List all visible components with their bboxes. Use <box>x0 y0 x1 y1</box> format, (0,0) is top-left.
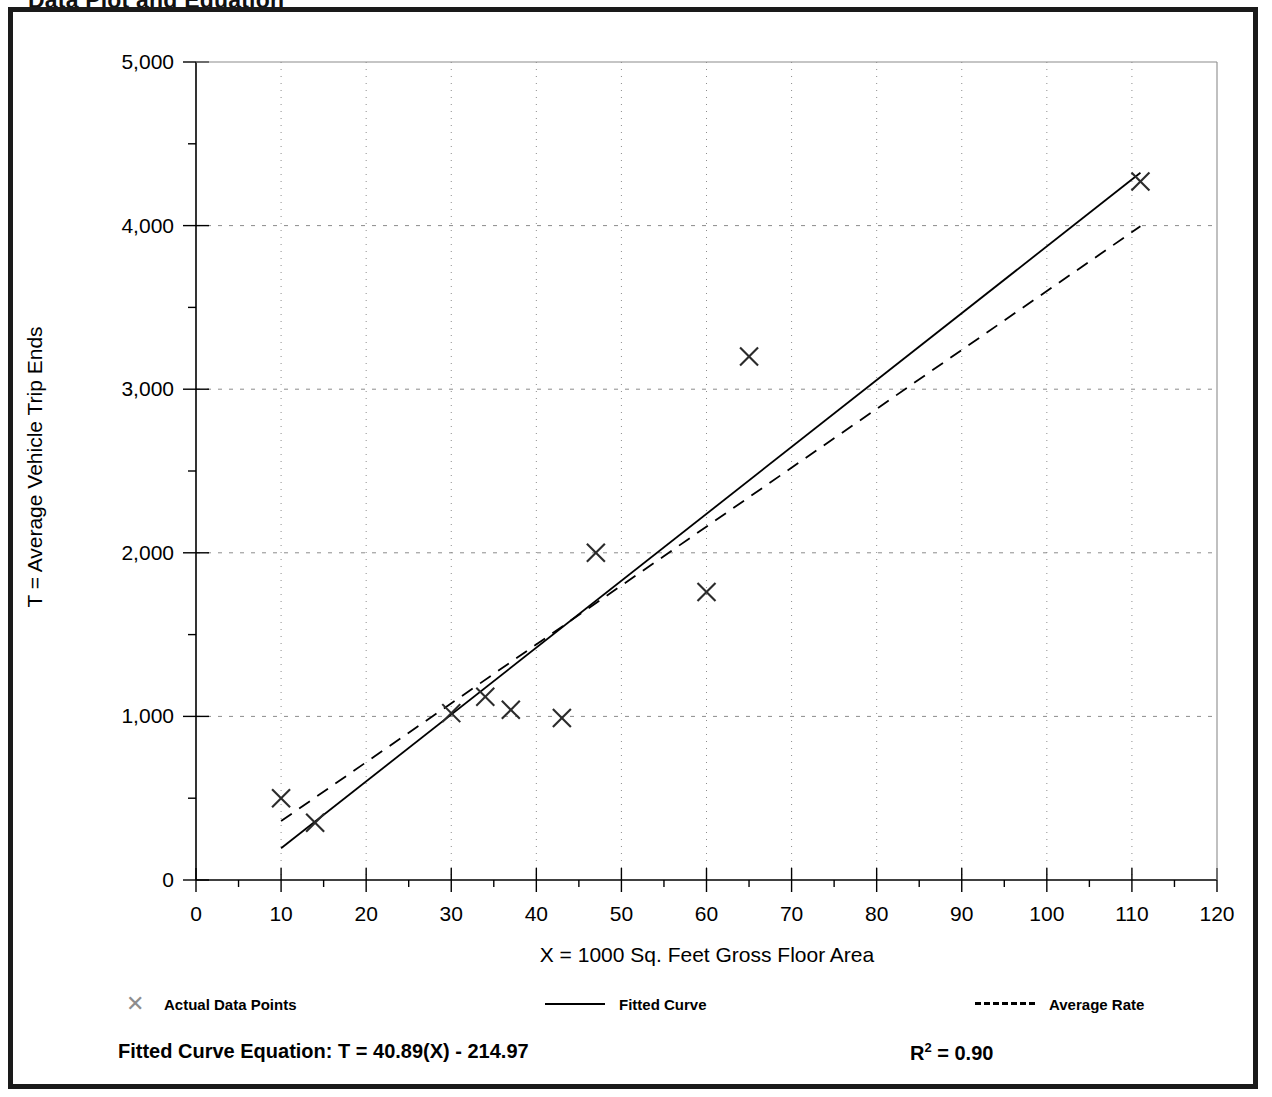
y-axis-tick-label: 5,000 <box>64 51 174 72</box>
y-axis-title: T = Average Vehicle Trip Ends <box>23 257 47 677</box>
equation-row: Fitted Curve Equation: T = 40.89(X) - 21… <box>0 1040 1272 1076</box>
chart-legend: ✕ Actual Data Points Fitted Curve Averag… <box>0 990 1272 1022</box>
dashed-line-icon <box>975 996 1035 1012</box>
x-axis-tick-label: 0 <box>156 903 236 924</box>
x-axis-tick-label: 70 <box>752 903 832 924</box>
x-axis-title: X = 1000 Sq. Feet Gross Floor Area <box>196 943 1218 967</box>
solid-line-icon <box>545 996 605 1012</box>
y-axis-tick-label: 2,000 <box>64 542 174 563</box>
legend-item-actual-data-points: ✕ Actual Data Points <box>118 990 297 1018</box>
y-axis-tick-label: 1,000 <box>64 705 174 726</box>
x-axis-tick-label: 90 <box>922 903 1002 924</box>
r-squared-exponent: 2 <box>924 1040 931 1055</box>
legend-item-fitted-curve: Fitted Curve <box>545 990 707 1018</box>
x-axis-tick-label: 60 <box>667 903 747 924</box>
y-axis-tick-label: 4,000 <box>64 215 174 236</box>
chart-frame <box>8 7 1258 1089</box>
x-axis-tick-label: 20 <box>326 903 406 924</box>
x-axis-tick-label: 100 <box>1007 903 1087 924</box>
x-axis-tick-label: 110 <box>1092 903 1172 924</box>
legend-item-average-rate: Average Rate <box>975 990 1144 1018</box>
r-squared-value: R2 = 0.90 <box>910 1040 993 1065</box>
legend-label-average-rate: Average Rate <box>1049 996 1144 1013</box>
x-axis-tick-label: 40 <box>496 903 576 924</box>
x-axis-tick-label: 120 <box>1177 903 1257 924</box>
y-axis-tick-label: 3,000 <box>64 378 174 399</box>
x-axis-tick-label: 30 <box>411 903 491 924</box>
fitted-curve-equation: Fitted Curve Equation: T = 40.89(X) - 21… <box>118 1040 529 1063</box>
chart-page: Data Plot and Equation T = Average Vehic… <box>0 0 1272 1097</box>
legend-label-fitted-curve: Fitted Curve <box>619 996 707 1013</box>
x-axis-tick-label: 80 <box>837 903 917 924</box>
r-squared-symbol: R <box>910 1042 924 1064</box>
x-marker-icon: ✕ <box>118 996 152 1012</box>
x-axis-tick-label: 10 <box>241 903 321 924</box>
y-axis-tick-label: 0 <box>64 869 174 890</box>
legend-label-actual-data-points: Actual Data Points <box>164 996 297 1013</box>
r-squared-number: = 0.90 <box>932 1042 994 1064</box>
x-axis-tick-label: 50 <box>581 903 661 924</box>
